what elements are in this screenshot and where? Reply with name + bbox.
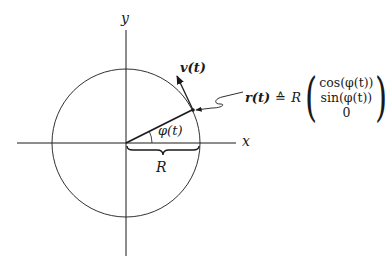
formula-lhs: r(t) [245,90,270,105]
velocity-label: v(t) [180,61,206,74]
vector-entry-cos: cos(φ(t)) [319,75,373,90]
vector-entry-sin: sin(φ(t)) [320,90,372,105]
velocity-vector [177,76,193,110]
y-axis-label: y [121,11,129,25]
position-formula: r(t) ≙ R ( cos(φ(t)) sin(φ(t)) 0 ) [245,67,390,127]
formula-scalar: R [291,90,301,105]
vector-entry-zero: 0 [342,105,350,120]
x-axis-label: x [242,134,250,148]
angle-arc [149,131,152,143]
radius-label: R [156,160,167,174]
left-paren: ( [305,71,317,123]
pointer-arrow [196,92,243,110]
radius-brace [127,146,199,155]
formula-relation: ≙ [275,90,286,105]
right-paren: ) [376,71,388,123]
column-vector: cos(φ(t)) sin(φ(t)) 0 [319,75,373,120]
angle-label: φ(t) [158,124,182,137]
